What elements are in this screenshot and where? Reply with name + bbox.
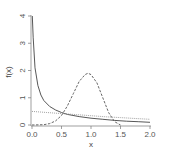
- x-tick-label: 2.0: [144, 130, 156, 139]
- x-ticks: 0.00.51.01.52.0: [26, 126, 156, 139]
- x-tick-label: 0.0: [26, 130, 38, 139]
- series-line-dashed: [32, 73, 121, 125]
- y-tick-label: 4: [18, 13, 27, 18]
- y-axis-title: f(x): [4, 66, 13, 78]
- density-chart: 01234 0.00.51.01.52.0 x f(x): [0, 0, 174, 155]
- series-line-solid: [32, 16, 150, 122]
- series-group: [32, 16, 150, 125]
- y-tick-label: 3: [18, 40, 27, 45]
- x-tick-label: 1.5: [115, 130, 127, 139]
- y-tick-label: 1: [18, 95, 27, 100]
- y-ticks: 01234: [18, 13, 31, 127]
- y-tick-label: 2: [18, 68, 27, 73]
- x-tick-label: 0.5: [56, 130, 68, 139]
- x-tick-label: 1.0: [85, 130, 97, 139]
- x-axis-title: x: [89, 140, 93, 149]
- y-tick-label: 0: [18, 122, 27, 127]
